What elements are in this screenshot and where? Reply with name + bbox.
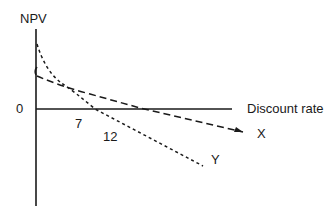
series-y-label: Y xyxy=(211,152,220,167)
tick-label-7: 7 xyxy=(75,116,82,131)
y-axis-label: NPV xyxy=(20,11,47,26)
series-x-line xyxy=(37,76,243,132)
tick-label-12: 12 xyxy=(103,129,117,144)
series-y-line xyxy=(37,44,203,166)
series-x-label: X xyxy=(257,126,266,141)
x-axis-label: Discount rate xyxy=(247,101,324,116)
npv-profile-diagram: NPV 0 Discount rate 7 12 X Y xyxy=(0,0,334,218)
series-x-arrowhead xyxy=(234,127,243,132)
origin-label: 0 xyxy=(16,101,23,116)
